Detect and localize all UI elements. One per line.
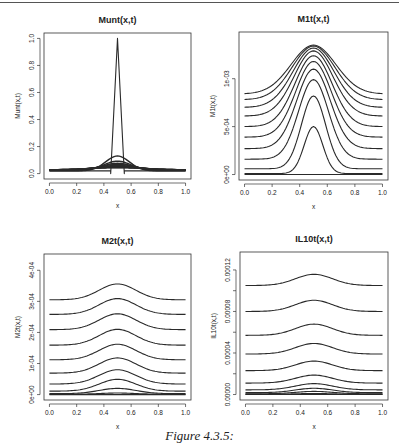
x-axis: 0.00.20.40.60.81.0 xyxy=(45,404,191,416)
series-curve-t10 xyxy=(49,284,185,300)
series-curve-t8 xyxy=(245,48,383,107)
svg-text:0.2: 0.2 xyxy=(268,409,277,416)
series-curve-t6 xyxy=(245,361,382,371)
curves xyxy=(49,284,185,395)
series-curve-t5 xyxy=(49,358,185,373)
x-axis: 0.00.20.40.60.81.0 xyxy=(45,183,191,195)
series-curve-t7 xyxy=(245,51,383,116)
y-axis-label: IL10t(x,t) xyxy=(210,313,218,339)
series-curve-t10 xyxy=(49,168,185,170)
y-axis: 0e+001e-042e-043e-044e-04 xyxy=(28,262,40,404)
series-curve-t8 xyxy=(245,324,382,335)
series-curve-t3 xyxy=(49,379,185,391)
svg-text:0e+00: 0e+00 xyxy=(223,165,230,184)
svg-text:0.4: 0.4 xyxy=(295,189,304,196)
x-axis: 0.00.20.40.60.81.0 xyxy=(240,184,387,196)
series-curve-t2 xyxy=(245,96,383,169)
svg-text:0.00012: 0.00012 xyxy=(224,258,231,282)
svg-text:0.0: 0.0 xyxy=(241,409,250,416)
svg-text:0.6: 0.6 xyxy=(323,409,332,416)
chart-title: M2t(x,t) xyxy=(102,236,134,246)
svg-text:0.00000: 0.00000 xyxy=(224,382,231,406)
svg-text:1.0: 1.0 xyxy=(28,34,35,43)
svg-text:1.0: 1.0 xyxy=(378,189,387,196)
y-axis-label: M2t(x,t) xyxy=(14,316,22,338)
svg-text:0e+00: 0e+00 xyxy=(28,385,35,404)
svg-text:1e-03: 1e-03 xyxy=(223,70,230,87)
initial-spike-curve xyxy=(49,38,185,173)
svg-text:1.0: 1.0 xyxy=(181,188,190,195)
y-axis: 0.00.20.40.60.81.0 xyxy=(28,34,40,179)
series-curve-t8 xyxy=(49,314,185,330)
svg-text:0.8: 0.8 xyxy=(154,409,163,416)
curves xyxy=(245,45,383,174)
series-curve-t6 xyxy=(245,56,383,127)
chart-title: IL10t(x,t) xyxy=(295,234,333,244)
curves xyxy=(49,38,185,173)
svg-text:1.0: 1.0 xyxy=(378,409,387,416)
panel-m1t: M1t(x,t)0.00.20.40.60.81.0x0e+005e-041e-… xyxy=(199,0,399,215)
curves xyxy=(245,274,382,394)
svg-text:0.2: 0.2 xyxy=(268,189,277,196)
svg-text:0.00004: 0.00004 xyxy=(224,341,231,365)
svg-text:1.0: 1.0 xyxy=(181,409,190,416)
svg-text:0.4: 0.4 xyxy=(99,188,108,195)
svg-text:0.00008: 0.00008 xyxy=(224,299,231,323)
series-curve-t1 xyxy=(245,127,383,174)
svg-text:0.2: 0.2 xyxy=(72,409,81,416)
series-curve-t10 xyxy=(245,274,382,285)
svg-text:0.8: 0.8 xyxy=(28,61,35,70)
svg-text:1e-04: 1e-04 xyxy=(28,355,35,372)
svg-text:0.0: 0.0 xyxy=(45,188,54,195)
plot-frame xyxy=(44,33,191,179)
m1t-chart-svg: M1t(x,t)0.00.20.40.60.81.0x0e+005e-041e-… xyxy=(199,0,399,215)
x-axis-label: x xyxy=(116,202,120,209)
panel-munt: Munt(x,t)0.00.20.40.60.81.0x0.00.20.40.6… xyxy=(0,0,200,215)
svg-text:0.4: 0.4 xyxy=(28,115,35,124)
series-curve-t7 xyxy=(245,343,382,354)
series-curve-t3 xyxy=(245,388,382,392)
svg-text:0.6: 0.6 xyxy=(127,188,136,195)
svg-text:0.4: 0.4 xyxy=(99,409,108,416)
svg-text:0.0: 0.0 xyxy=(240,189,249,196)
il10t-chart-svg: IL10t(x,t)0.00.20.40.60.81.0x0.000000.00… xyxy=(199,215,399,430)
svg-text:0.4: 0.4 xyxy=(296,409,305,416)
svg-text:4e-04: 4e-04 xyxy=(28,262,35,279)
series-curve-t4 xyxy=(245,384,382,390)
svg-text:0.8: 0.8 xyxy=(351,409,360,416)
y-axis: 0.000000.000040.000080.00012 xyxy=(224,258,236,406)
svg-text:0.0: 0.0 xyxy=(45,409,54,416)
y-axis-label: M1t(x,t) xyxy=(209,95,217,117)
plot-frame xyxy=(44,254,191,400)
series-curve-t9 xyxy=(49,299,185,315)
munt-chart-svg: Munt(x,t)0.00.20.40.60.81.0x0.00.20.40.6… xyxy=(0,0,200,215)
chart-title: Munt(x,t) xyxy=(99,15,137,25)
series-curve-t7 xyxy=(49,329,185,345)
x-axis-label: x xyxy=(312,203,316,210)
svg-text:2e-04: 2e-04 xyxy=(28,324,35,341)
m2t-chart-svg: M2t(x,t)0.00.20.40.60.81.0x0e+001e-042e-… xyxy=(0,215,200,430)
series-curve-t5 xyxy=(245,375,382,383)
series-curve-t4 xyxy=(49,370,185,384)
x-axis: 0.00.20.40.60.81.0 xyxy=(241,404,387,416)
svg-text:3e-04: 3e-04 xyxy=(28,293,35,310)
y-axis: 0e+005e-041e-03 xyxy=(223,70,235,184)
svg-text:5e-04: 5e-04 xyxy=(223,118,230,135)
panel-m2t: M2t(x,t)0.00.20.40.60.81.0x0e+001e-042e-… xyxy=(0,215,200,430)
series-curve-t9 xyxy=(245,300,382,311)
svg-text:0.2: 0.2 xyxy=(28,142,35,151)
svg-text:0.6: 0.6 xyxy=(127,409,136,416)
svg-text:0.8: 0.8 xyxy=(154,188,163,195)
panel-il10t: IL10t(x,t)0.00.20.40.60.81.0x0.000000.00… xyxy=(199,215,399,430)
svg-text:0.2: 0.2 xyxy=(72,188,81,195)
series-curve-t5 xyxy=(245,61,383,137)
series-curve-t4 xyxy=(245,69,383,149)
series-curve-t9 xyxy=(245,46,383,99)
svg-text:0.6: 0.6 xyxy=(28,88,35,97)
svg-text:0.0: 0.0 xyxy=(28,169,35,178)
y-axis-label: Munt(x,t) xyxy=(14,93,22,119)
svg-text:0.6: 0.6 xyxy=(323,189,332,196)
svg-text:0.8: 0.8 xyxy=(350,189,359,196)
plot-frame xyxy=(239,32,388,180)
chart-title: M1t(x,t) xyxy=(298,14,330,24)
